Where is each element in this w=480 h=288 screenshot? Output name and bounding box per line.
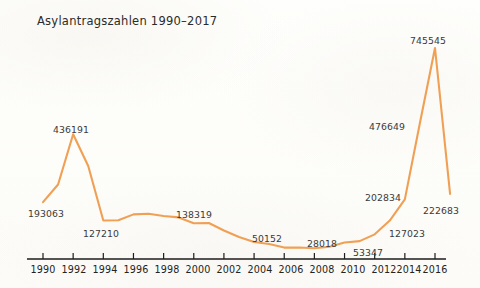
x-tick-label-2012: 2012 — [372, 264, 397, 275]
asylum-applications-series-line — [43, 48, 450, 248]
x-tick-label-1994: 1994 — [93, 264, 118, 275]
x-tick-label-1998: 1998 — [155, 264, 180, 275]
data-label-1992: 436191 — [53, 124, 89, 135]
data-label-2008: 28018 — [307, 238, 337, 249]
data-label-2014: 202834 — [365, 192, 401, 203]
x-tick-label-2008: 2008 — [310, 264, 335, 275]
data-label-1994: 127210 — [83, 228, 119, 239]
data-label-1999: 138319 — [176, 209, 212, 220]
data-label-2016: 745545 — [410, 35, 446, 46]
x-tick-label-1992: 1992 — [62, 264, 87, 275]
x-tick-label-2002: 2002 — [217, 264, 242, 275]
x-tick-label-2004: 2004 — [248, 264, 273, 275]
x-tick-label-1996: 1996 — [124, 264, 149, 275]
data-label-2015: 476649 — [369, 121, 405, 132]
data-label-2011: 53347 — [353, 247, 383, 258]
x-tick-label-2016: 2016 — [423, 264, 448, 275]
data-label-2004: 50152 — [252, 233, 282, 244]
data-label-1990: 193063 — [28, 208, 64, 219]
data-label-2017: 222683 — [423, 205, 459, 216]
x-tick-label-2010: 2010 — [341, 264, 366, 275]
x-tick-label-1990: 1990 — [31, 264, 56, 275]
line-chart-plot — [0, 0, 480, 288]
data-label-2013: 127023 — [389, 228, 425, 239]
x-tick-label-2014: 2014 — [397, 264, 422, 275]
chart-container: Asylantragszahlen 1990–2017 193063 43619… — [0, 0, 480, 288]
x-tick-label-2000: 2000 — [186, 264, 211, 275]
x-tick-label-2006: 2006 — [279, 264, 304, 275]
